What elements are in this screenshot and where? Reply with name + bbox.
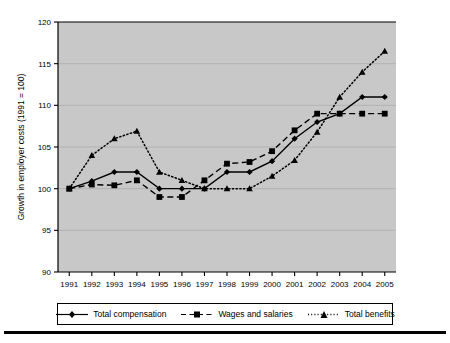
- x-axis-tick-labels: 1991199219931994199519961997199819992000…: [60, 280, 394, 289]
- data-point-square: [111, 182, 117, 188]
- x-tick-label: 1994: [128, 280, 146, 289]
- chart-legend: Total compensation Wages and salaries To…: [57, 303, 393, 325]
- y-tick-label: 105: [38, 143, 52, 152]
- data-point-square: [157, 194, 163, 200]
- y-tick-label: 90: [42, 268, 51, 277]
- legend-marker-triangle: [307, 309, 341, 320]
- y-tick-label: 100: [38, 185, 52, 194]
- data-point-square: [314, 111, 320, 117]
- legend-label-wages-and-salaries: Wages and salaries: [218, 309, 292, 319]
- bottom-horizontal-rule: [4, 331, 446, 334]
- legend-item-total-benefits: Total benefits: [307, 309, 395, 320]
- x-tick-label: 1992: [83, 280, 101, 289]
- x-tick-label: 2004: [353, 280, 371, 289]
- x-tick-label: 1995: [151, 280, 169, 289]
- legend-marker-diamond: [55, 309, 89, 320]
- y-axis-title: Growth in employer costs (1991 = 100): [16, 73, 26, 220]
- data-point-square: [292, 127, 298, 133]
- chart-figure: 9095100105110115120 19911992199319941995…: [0, 0, 450, 343]
- legend-item-wages-and-salaries: Wages and salaries: [180, 309, 292, 320]
- data-point-square: [134, 177, 140, 183]
- y-tick-label: 120: [38, 18, 52, 27]
- x-tick-label: 2003: [331, 280, 349, 289]
- data-point-square: [89, 182, 95, 188]
- x-tick-label: 1998: [218, 280, 236, 289]
- y-tick-label: 110: [38, 101, 51, 110]
- x-tick-label: 1997: [196, 280, 214, 289]
- x-tick-label: 2000: [263, 280, 281, 289]
- data-point-square: [382, 111, 388, 117]
- x-tick-label: 1996: [173, 280, 191, 289]
- data-point-square: [337, 111, 343, 117]
- data-point-square: [247, 159, 253, 165]
- x-tick-label: 2001: [286, 280, 304, 289]
- x-tick-label: 1991: [60, 280, 78, 289]
- x-tick-label: 1999: [241, 280, 259, 289]
- y-axis-tick-labels: 9095100105110115120: [38, 18, 52, 277]
- data-point-square: [224, 161, 230, 167]
- legend-label-total-compensation: Total compensation: [93, 309, 166, 319]
- x-tick-label: 2005: [376, 280, 394, 289]
- legend-marker-square: [180, 309, 214, 320]
- data-point-square: [359, 111, 365, 117]
- line-chart: 9095100105110115120 19911992199319941995…: [0, 0, 450, 343]
- legend-label-total-benefits: Total benefits: [345, 309, 395, 319]
- x-tick-label: 1993: [105, 280, 123, 289]
- data-point-square: [179, 194, 185, 200]
- x-tick-label: 2002: [308, 280, 326, 289]
- y-tick-label: 115: [38, 60, 51, 69]
- y-tick-label: 95: [42, 226, 51, 235]
- legend-item-total-compensation: Total compensation: [55, 309, 166, 320]
- data-point-square: [202, 177, 208, 183]
- data-point-square: [269, 148, 275, 154]
